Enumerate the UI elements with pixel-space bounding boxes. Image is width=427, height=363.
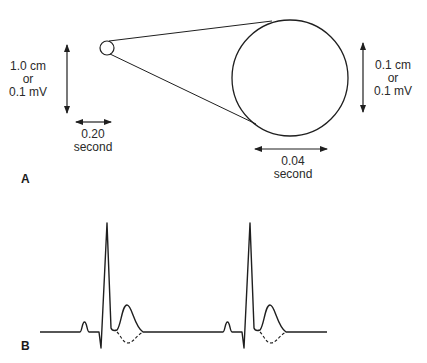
- large-circle-small-box: [232, 20, 348, 136]
- ecg-trace: [40, 223, 327, 348]
- large-box-vertical-label-2: or: [23, 72, 34, 86]
- large-box-vertical-label-3: 0.1 mV: [9, 85, 47, 99]
- small-box-vertical-label-2: or: [388, 71, 399, 85]
- large-box-horizontal-label-1: 0.20: [81, 127, 105, 141]
- panel-a-label: A: [21, 172, 30, 186]
- small-circle-large-box: [100, 41, 114, 55]
- panel-b: B: [21, 223, 327, 353]
- large-box-vertical-label-1: 1.0 cm: [10, 59, 46, 73]
- inverted-t-wave-1: [117, 332, 143, 343]
- inverted-t-wave-2: [260, 332, 286, 343]
- small-box-vertical-label-3: 0.1 mV: [374, 84, 412, 98]
- panel-b-label: B: [21, 339, 30, 353]
- panel-a: 1.0 cm or 0.1 mV 0.20 second 0.1 cm or 0…: [9, 20, 412, 186]
- ecg-figure: 1.0 cm or 0.1 mV 0.20 second 0.1 cm or 0…: [0, 0, 427, 363]
- small-box-vertical-label-1: 0.1 cm: [375, 58, 411, 72]
- large-box-horizontal-label-2: second: [74, 140, 113, 154]
- small-box-horizontal-label-2: second: [274, 167, 313, 181]
- small-box-horizontal-label-1: 0.04: [281, 154, 305, 168]
